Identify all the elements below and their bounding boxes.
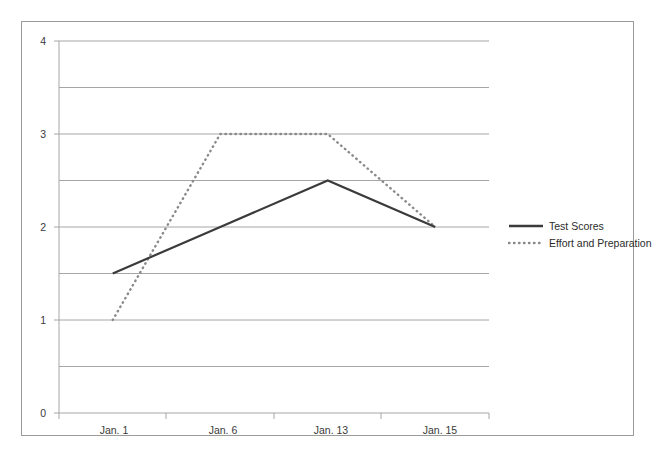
y-tick-label-3: 3 xyxy=(22,129,46,140)
chart-plot-area xyxy=(22,22,633,435)
y-tick-label-2: 2 xyxy=(22,222,46,233)
y-tick-label-1: 1 xyxy=(22,315,46,326)
x-tick-label-jan-13: Jan. 13 xyxy=(291,425,371,436)
legend-label-effort-and-preparation: Effort and Preparation xyxy=(549,238,652,249)
y-axis-ticks xyxy=(54,41,59,413)
x-tick-label-jan-15: Jan. 15 xyxy=(400,425,480,436)
x-tick-label-jan-6: Jan. 6 xyxy=(183,425,263,436)
y-tick-label-4: 4 xyxy=(22,36,46,47)
x-axis-ticks xyxy=(59,413,489,419)
chart-figure: 4 3 2 1 0 Jan. 1 Jan. 6 Jan. 13 Jan. 15 … xyxy=(0,0,653,456)
y-tick-label-0: 0 xyxy=(22,408,46,419)
legend-label-test-scores: Test Scores xyxy=(549,221,604,232)
chart-border-frame: 4 3 2 1 0 Jan. 1 Jan. 6 Jan. 13 Jan. 15 … xyxy=(21,21,634,436)
legend-swatches xyxy=(509,226,543,243)
x-tick-label-jan-1: Jan. 1 xyxy=(74,425,154,436)
